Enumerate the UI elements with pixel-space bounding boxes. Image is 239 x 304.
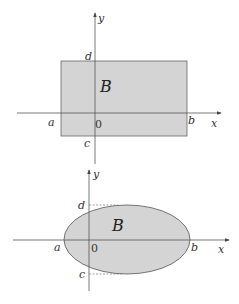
a-label: a bbox=[48, 116, 55, 129]
figure: y d B a 0 b x c y d B a 0 b x c bbox=[0, 0, 239, 304]
x-axis-label: x bbox=[211, 117, 218, 130]
ellipse-diagram: y d B a 0 b x c bbox=[13, 168, 229, 291]
y-axis-label: y bbox=[97, 12, 105, 25]
d-label: d bbox=[78, 199, 85, 212]
y-axis-label: y bbox=[92, 168, 100, 181]
x-axis-label: x bbox=[218, 243, 225, 256]
c-label: c bbox=[84, 137, 90, 150]
origin-label: 0 bbox=[91, 242, 98, 255]
region-label: B bbox=[111, 216, 124, 235]
rectangle-diagram: y d B a 0 b x c bbox=[17, 12, 221, 164]
b-label: b bbox=[188, 114, 195, 127]
c-label: c bbox=[79, 268, 85, 281]
origin-label: 0 bbox=[95, 118, 102, 131]
region-b-rectangle bbox=[61, 61, 187, 136]
d-label: d bbox=[85, 50, 92, 63]
b-label: b bbox=[191, 241, 198, 254]
region-b-ellipse bbox=[64, 205, 190, 274]
region-label: B bbox=[99, 77, 112, 96]
a-label: a bbox=[54, 241, 61, 254]
